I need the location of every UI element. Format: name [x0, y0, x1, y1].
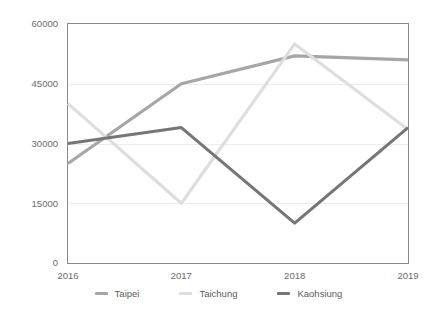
- x-axis-tick-label: 2016: [57, 270, 78, 281]
- legend-label: Kaohsiung: [297, 289, 342, 299]
- legend-label: Taipei: [115, 289, 140, 299]
- series-line-taichung: [68, 44, 408, 203]
- y-axis-tick-label: 15000: [32, 198, 58, 209]
- chart-canvas: 600004500030000150000 2016201720182019: [0, 0, 437, 317]
- y-axis-tick-label: 30000: [32, 138, 58, 149]
- legend-item-taipei[interactable]: Taipei: [95, 289, 140, 299]
- y-axis-tick-label: 45000: [32, 78, 58, 89]
- y-axis-tick-label: 0: [53, 257, 58, 268]
- x-axis-tick-label: 2019: [397, 270, 418, 281]
- series-line-kaohsiung: [68, 128, 408, 224]
- legend-item-taichung[interactable]: Taichung: [179, 289, 237, 299]
- gridlines: [68, 85, 408, 204]
- x-axis-tick-label: 2018: [284, 270, 305, 281]
- line-chart: 600004500030000150000 2016201720182019 T…: [0, 0, 437, 317]
- legend-label: Taichung: [199, 289, 237, 299]
- y-axis-tick-label: 60000: [32, 18, 58, 29]
- legend-item-kaohsiung[interactable]: Kaohsiung: [277, 289, 342, 299]
- legend-swatch-icon: [179, 292, 192, 295]
- legend-swatch-icon: [95, 292, 108, 295]
- legend-swatch-icon: [277, 292, 290, 295]
- y-axis-tick-labels: 600004500030000150000: [32, 18, 58, 268]
- x-axis-tick-labels: 2016201720182019: [57, 270, 418, 281]
- chart-legend: TaipeiTaichungKaohsiung: [0, 289, 437, 299]
- x-axis-tick-label: 2017: [171, 270, 192, 281]
- data-series-group: [68, 44, 408, 223]
